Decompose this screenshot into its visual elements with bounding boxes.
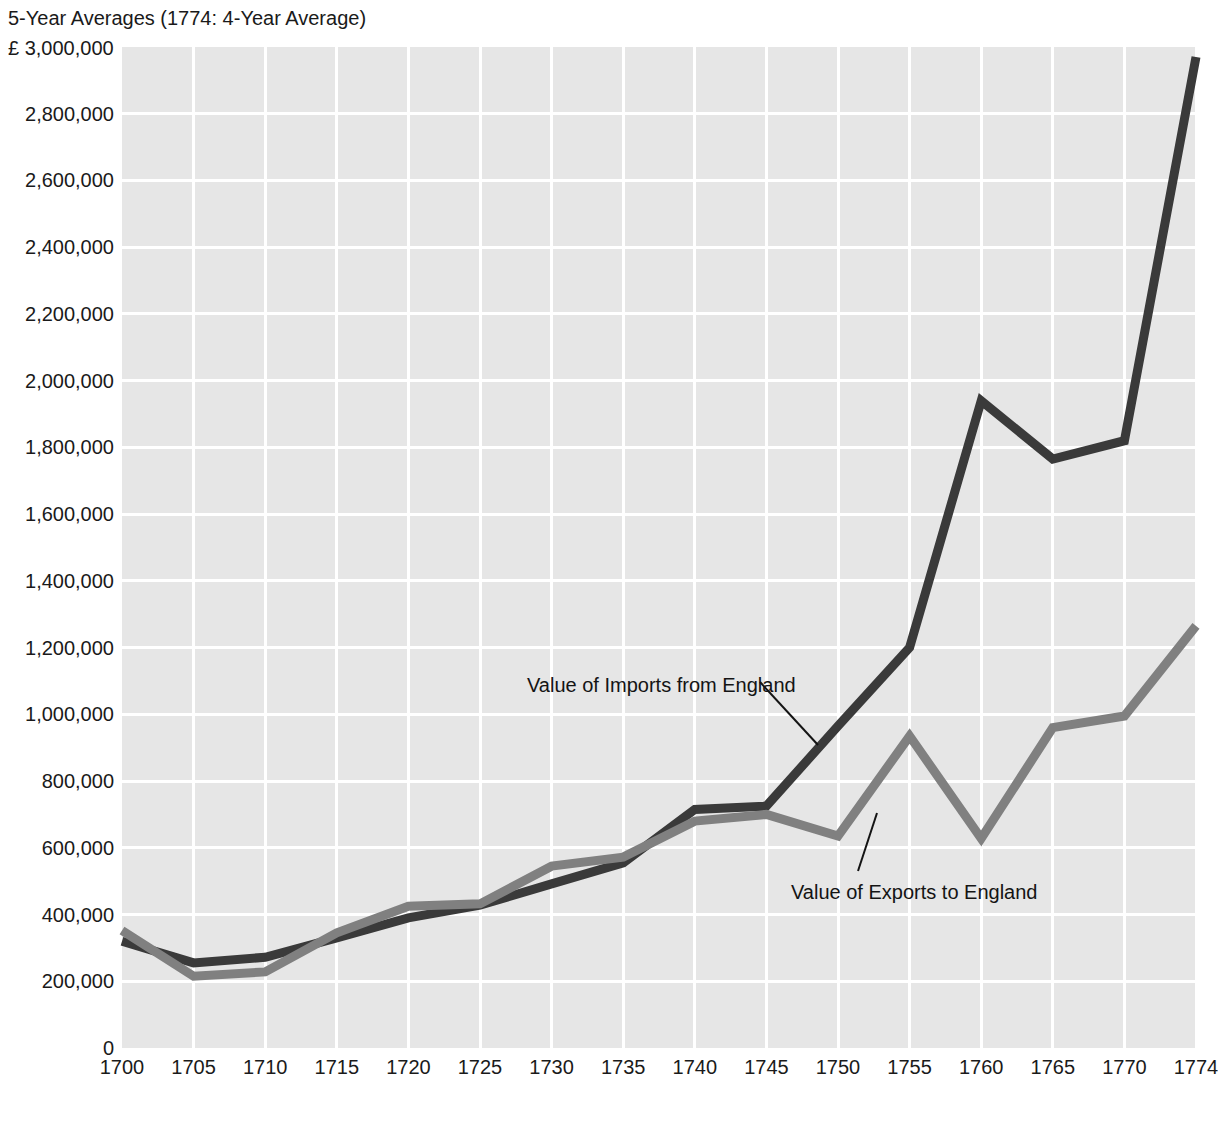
gridline-vertical bbox=[550, 47, 553, 1048]
x-axis-tick-labels: 1700170517101715172017251730173517401745… bbox=[0, 1055, 1214, 1085]
y-axis-tick-label: 1,400,000 bbox=[0, 570, 114, 592]
x-axis-tick-label: 1765 bbox=[1031, 1055, 1076, 1079]
gridline-vertical bbox=[622, 47, 625, 1048]
x-axis-tick-label: 1720 bbox=[386, 1055, 431, 1079]
x-axis-tick-label: 1725 bbox=[458, 1055, 503, 1079]
annotation-label-imports: Value of Imports from England bbox=[527, 673, 796, 697]
x-axis-tick-label: 1770 bbox=[1102, 1055, 1147, 1079]
x-axis-tick-label: 1750 bbox=[816, 1055, 861, 1079]
annotation-label-exports: Value of Exports to England bbox=[791, 880, 1037, 904]
x-axis-tick-label: 1740 bbox=[673, 1055, 718, 1079]
y-axis-tick-label: 1,000,000 bbox=[0, 703, 114, 725]
y-axis-tick-label: 2,000,000 bbox=[0, 370, 114, 392]
y-axis-tick-label: 800,000 bbox=[0, 770, 114, 792]
x-axis-tick-label: 1755 bbox=[887, 1055, 932, 1079]
gridline-horizontal bbox=[122, 646, 1197, 649]
gridline-horizontal bbox=[122, 312, 1197, 315]
y-axis-tick-labels: 0200,000400,000600,000800,0001,000,0001,… bbox=[0, 0, 114, 1125]
gridline-horizontal bbox=[122, 179, 1197, 182]
gridline-horizontal bbox=[122, 846, 1197, 849]
y-axis-tick-label: 1,200,000 bbox=[0, 637, 114, 659]
x-axis-tick-label: 1745 bbox=[744, 1055, 789, 1079]
gridline-horizontal bbox=[122, 780, 1197, 783]
gridline-horizontal bbox=[122, 713, 1197, 716]
x-axis-tick-label: 1760 bbox=[959, 1055, 1004, 1079]
x-axis-tick-label: 1705 bbox=[171, 1055, 216, 1079]
gridline-horizontal bbox=[122, 446, 1197, 449]
x-axis-tick-label: 1730 bbox=[529, 1055, 574, 1079]
gridline-horizontal bbox=[122, 112, 1197, 115]
gridline-vertical bbox=[693, 47, 696, 1048]
y-axis-tick-label: 2,400,000 bbox=[0, 236, 114, 258]
gridline-horizontal bbox=[122, 980, 1197, 983]
y-axis-tick-label: 2,200,000 bbox=[0, 303, 114, 325]
y-axis-tick-label: 400,000 bbox=[0, 904, 114, 926]
y-axis-tick-label: 2,800,000 bbox=[0, 103, 114, 125]
gridline-vertical bbox=[407, 47, 410, 1048]
y-axis-tick-label: 200,000 bbox=[0, 970, 114, 992]
gridline-horizontal bbox=[122, 246, 1197, 249]
x-axis-tick-label: 1735 bbox=[601, 1055, 646, 1079]
gridline-vertical bbox=[192, 47, 195, 1048]
gridline-vertical bbox=[335, 47, 338, 1048]
y-axis-tick-label: 1,600,000 bbox=[0, 503, 114, 525]
gridline-horizontal bbox=[122, 379, 1197, 382]
x-axis-tick-label: 1710 bbox=[243, 1055, 288, 1079]
x-axis-tick-label: 1774 bbox=[1174, 1055, 1218, 1079]
y-axis-tick-label: 1,800,000 bbox=[0, 436, 114, 458]
gridline-vertical bbox=[1195, 47, 1198, 1048]
gridline-vertical bbox=[1051, 47, 1054, 1048]
gridline-vertical bbox=[264, 47, 267, 1048]
gridline-horizontal bbox=[122, 513, 1197, 516]
x-axis-tick-label: 1700 bbox=[100, 1055, 145, 1079]
gridline-vertical bbox=[1123, 47, 1126, 1048]
gridline-vertical bbox=[765, 47, 768, 1048]
y-axis-tick-label: 600,000 bbox=[0, 837, 114, 859]
gridline-vertical bbox=[479, 47, 482, 1048]
gridline-horizontal bbox=[122, 579, 1197, 582]
x-axis-tick-label: 1715 bbox=[315, 1055, 360, 1079]
gridline-horizontal bbox=[122, 913, 1197, 916]
y-axis-tick-label: 2,600,000 bbox=[0, 169, 114, 191]
